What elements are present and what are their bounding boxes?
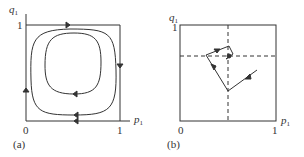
panel-a-x-label: p1: [134, 114, 143, 129]
panel-a-y-label: q1: [9, 4, 18, 19]
arrow-icon: [245, 74, 251, 79]
arrow-icon: [74, 112, 78, 118]
panel-a-x-tick-1: 1: [117, 125, 123, 136]
arrow-icon: [211, 64, 216, 70]
arrow-icon: [214, 49, 220, 53]
panel-b-plot: [180, 25, 276, 121]
equilibrium-point: [227, 54, 231, 58]
arrow-icon: [117, 64, 123, 68]
panel-a-outer-orbit: [31, 29, 116, 115]
panel-b-x-label: p1: [281, 115, 290, 130]
panel-a-inner-orbit: [45, 33, 101, 94]
arrow-icon: [23, 88, 29, 92]
panel-a-x-tick-0: 0: [23, 125, 29, 136]
panel-b-x-tick-1: 1: [272, 125, 278, 136]
panel-a-plot: [23, 14, 130, 124]
panel-b-caption: (b): [167, 139, 180, 150]
panel-a-y-tick-1: 1: [17, 20, 23, 31]
panel-b-x-tick-0: 0: [178, 125, 184, 136]
arrow-icon: [66, 22, 70, 28]
arrow-icon: [74, 118, 78, 124]
figure-canvas: [0, 0, 304, 157]
panel-a-caption: (a): [13, 139, 25, 150]
panel-b-y-tick-1: 1: [172, 22, 178, 33]
arrow-icon: [73, 91, 77, 97]
